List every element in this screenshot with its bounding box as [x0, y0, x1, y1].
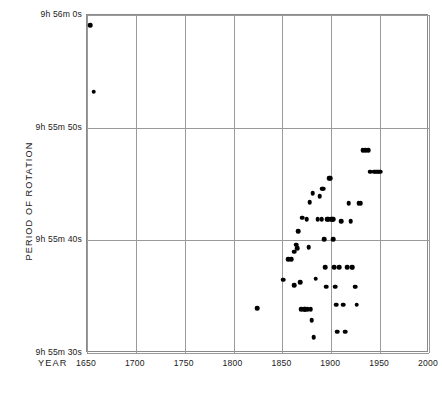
data-point	[295, 246, 300, 251]
x-tick-label: 1700	[113, 358, 157, 368]
data-point	[349, 219, 354, 224]
x-tick-label: 1800	[211, 358, 255, 368]
gridline-x-1750	[185, 15, 186, 353]
gridline-x-1700	[136, 15, 137, 353]
data-point	[322, 237, 327, 242]
data-point	[313, 276, 318, 281]
gridline-y-3	[87, 353, 429, 354]
y-tick-label: 9h 56m 0s	[2, 9, 82, 19]
data-point	[335, 329, 340, 334]
data-point	[323, 265, 328, 270]
data-point	[328, 176, 333, 181]
y-tick-label: 9h 55m 40s	[2, 234, 82, 244]
data-point	[358, 201, 363, 206]
data-point	[310, 191, 315, 196]
data-point	[309, 318, 314, 323]
data-point	[350, 265, 355, 270]
y-tick-label: 9h 55m 50s	[2, 122, 82, 132]
x-tick-label: 1650	[64, 358, 108, 368]
data-point	[311, 335, 316, 340]
x-tick-label: 1950	[357, 358, 401, 368]
gridline-x-1800	[234, 15, 235, 353]
data-point	[334, 302, 339, 307]
gridline-y-0	[87, 15, 429, 16]
y-tick-label: 9h 55m 30s	[2, 347, 82, 357]
data-point	[343, 329, 348, 334]
data-point	[341, 302, 346, 307]
data-point	[289, 257, 294, 262]
data-point	[333, 284, 338, 289]
gridline-x-1900	[331, 15, 332, 353]
data-point	[319, 217, 324, 222]
gridline-y-1	[87, 128, 429, 129]
data-point	[321, 186, 326, 191]
y-axis-title: PERIOD OF ROTATION	[24, 136, 34, 266]
data-point	[296, 229, 301, 234]
x-tick-label: 1750	[162, 358, 206, 368]
data-point	[292, 283, 297, 288]
gridline-x-1950	[380, 15, 381, 353]
data-point	[337, 265, 342, 270]
data-point	[339, 219, 344, 224]
data-point	[331, 237, 336, 242]
data-point	[298, 280, 303, 285]
gridline-y-2	[87, 240, 429, 241]
chart-container: 9h 56m 0s9h 55m 50s9h 55m 40s9h 55m 30s …	[0, 0, 442, 394]
data-point	[255, 306, 260, 311]
data-point	[331, 217, 336, 222]
data-point	[378, 169, 383, 174]
x-axis-title: YEAR	[38, 358, 67, 368]
plot-area	[86, 14, 428, 352]
gridline-x-2000	[429, 15, 430, 353]
data-point	[307, 200, 312, 205]
data-point	[88, 23, 93, 28]
data-point	[317, 194, 322, 199]
data-point	[308, 307, 313, 312]
data-point	[353, 284, 358, 289]
data-point	[305, 217, 310, 222]
x-tick-label: 1850	[259, 358, 303, 368]
data-point	[307, 245, 312, 250]
data-point	[347, 201, 352, 206]
data-point	[324, 284, 329, 289]
data-point	[366, 148, 371, 153]
data-point	[92, 89, 97, 94]
data-point	[354, 302, 359, 307]
data-point	[332, 265, 337, 270]
x-tick-label: 2000	[406, 358, 442, 368]
x-tick-label: 1900	[308, 358, 352, 368]
data-point	[345, 265, 350, 270]
gridline-x-1650	[87, 15, 88, 353]
gridline-x-1850	[282, 15, 283, 353]
data-point	[281, 277, 286, 282]
